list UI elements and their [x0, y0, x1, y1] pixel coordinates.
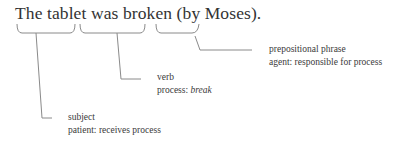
annotation-role: process: break	[157, 84, 212, 97]
brace-subject	[17, 24, 75, 33]
connector-subject	[36, 33, 52, 118]
annotation-title: prepositional phrase	[269, 43, 382, 56]
connector-prep	[195, 36, 252, 50]
brace-prep	[156, 24, 199, 33]
brace-verb	[80, 24, 145, 33]
annotation-verb: verb process: break	[157, 71, 212, 97]
connector-verb	[117, 33, 141, 79]
annotation-role: agent: responsible for process	[269, 56, 382, 69]
annotation-title: verb	[157, 71, 212, 84]
annotation-prepositional-phrase: prepositional phrase agent: responsible …	[269, 43, 382, 69]
annotation-title: subject	[68, 111, 161, 124]
annotation-subject: subject patient: receives process	[68, 111, 161, 137]
annotation-role: patient: receives process	[68, 124, 161, 137]
